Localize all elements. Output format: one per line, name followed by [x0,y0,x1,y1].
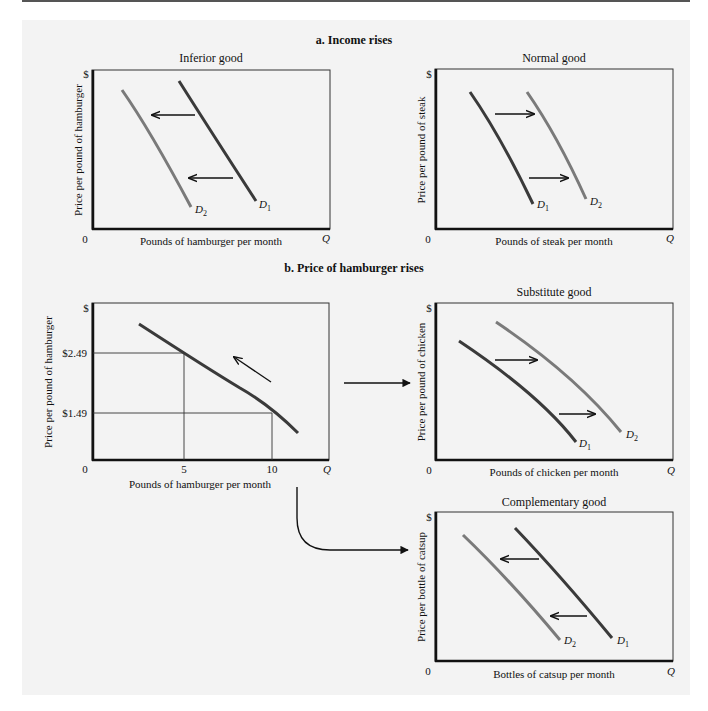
x-axis-symbol: Q [667,665,675,677]
plot-frame [92,70,330,229]
origin-label: 0 [426,464,432,476]
demand-curve-d2 [496,322,621,432]
chart-inferior-good: Inferior good $ 0 Q Pounds of hamburger … [72,51,330,247]
d2-label: D2 [625,428,638,443]
y-axis-symbol: $ [426,68,432,80]
d2-label: D2 [563,634,576,649]
y-axis-symbol: $ [426,302,432,314]
demand-curve-d2 [527,92,586,199]
figure-canvas: a. Income rises b. Price of hamburger ri… [0,0,708,711]
d1-label: D1 [578,437,591,452]
y-axis-symbol: $ [83,302,89,314]
demand-curve-d1 [515,528,612,638]
section-a-heading: a. Income rises [316,33,393,47]
chart-title: Complementary good [502,495,606,509]
chart-title: Normal good [522,51,586,65]
x-axis-symbol: Q [666,232,674,244]
chart-title: Inferior good [179,51,243,65]
origin-label: 0 [82,233,88,245]
d2-label: D2 [589,195,602,210]
arrow-to-complementary [297,487,408,550]
y-axis-label: Price per pound of hamburger [42,316,54,448]
demand-curve-d1 [470,92,533,204]
d1-label: D1 [616,634,629,649]
chart-hamburger-demand: $ $2.49 $1.49 0 5 10 Q Pounds of hamburg… [42,302,331,490]
origin-label: 0 [82,463,88,475]
x-tick-5: 5 [181,463,187,475]
y-axis-label: Price per bottle of catsup [415,532,427,642]
chart-substitute-good: Substitute good $ 0 Q Pounds of chicken … [415,285,675,478]
y-tick-1.49: $1.49 [62,407,87,419]
y-axis-symbol: $ [83,68,89,80]
x-axis-label: Bottles of catsup per month [493,668,615,680]
x-axis-symbol: Q [323,463,331,475]
x-axis-label: Pounds of chicken per month [490,466,619,478]
x-axis-label: Pounds of steak per month [495,235,613,247]
y-axis-label: Price per pound of chicken [415,322,427,441]
x-axis-symbol: Q [667,464,675,476]
origin-label: 0 [425,665,431,677]
demand-curve-d2 [463,535,560,640]
chart-complementary-good: Complementary good $ 0 Q Bottles of cats… [415,495,675,680]
origin-label: 0 [425,233,431,245]
chart-normal-good: Normal good $ 0 Q Pounds of steak per mo… [415,51,674,247]
demand-curve [139,324,298,433]
plot-frame [435,512,673,661]
x-axis-symbol: Q [322,232,330,244]
chart-title: Substitute good [516,285,591,299]
y-axis-label: Price per pound of steak [415,96,427,203]
movement-along-curve-arrow [234,357,271,382]
demand-curve-d1 [459,341,576,442]
d1-label: D1 [536,198,549,213]
d1-label: D1 [258,198,271,213]
x-axis-label: Pounds of hamburger per month [129,478,272,490]
y-tick-2.49: $2.49 [62,347,87,359]
y-axis-label: Price per pound of hamburger [72,84,84,216]
y-axis-symbol: $ [426,511,432,523]
section-b-heading: b. Price of hamburger rises [284,261,424,275]
d2-label: D2 [194,203,207,218]
plot-frame [92,303,329,460]
demand-curve-d1 [179,81,256,201]
demand-curve-d2 [122,90,191,207]
x-axis-label: Pounds of hamburger per month [140,235,283,247]
x-tick-10: 10 [267,463,279,475]
